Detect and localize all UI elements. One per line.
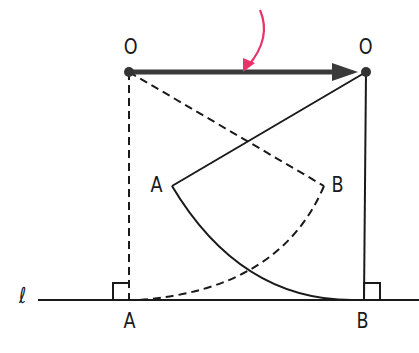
solid-o-b bbox=[364, 72, 366, 300]
dashed-o-bmid bbox=[129, 72, 324, 186]
dashed-arc bbox=[138, 186, 324, 300]
point-o-left bbox=[124, 67, 134, 77]
diagram-canvas bbox=[0, 0, 419, 353]
right-angle-b bbox=[364, 283, 380, 300]
point-o-right bbox=[361, 67, 371, 77]
right-angle-a bbox=[113, 283, 130, 300]
label-b-mid: B bbox=[332, 172, 344, 197]
label-b-bottom: B bbox=[357, 308, 369, 333]
solid-o-amid bbox=[172, 72, 366, 186]
label-line-l: ℓ bbox=[19, 283, 26, 308]
pointer-arrow-curve bbox=[248, 10, 264, 66]
label-o-left: O bbox=[124, 34, 138, 59]
label-a-mid: A bbox=[151, 172, 163, 197]
label-o-right: O bbox=[359, 34, 373, 59]
solid-arc bbox=[172, 186, 352, 300]
label-a-bottom: A bbox=[124, 308, 136, 333]
